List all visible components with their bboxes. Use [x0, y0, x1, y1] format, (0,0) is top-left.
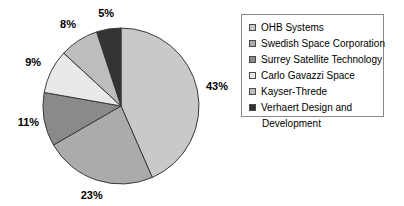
legend-swatch-icon	[249, 88, 256, 95]
legend-swatch-icon	[249, 104, 256, 111]
legend-item-label-line2: Development	[262, 117, 321, 131]
legend-item[interactable]: Carlo Gavazzi Space	[249, 69, 383, 84]
legend-swatch-icon	[249, 72, 256, 79]
pie-plot-area: 43%23%11%9%8%5%	[0, 0, 240, 206]
legend-item-label: Kayser-Threde	[261, 85, 327, 99]
legend-item[interactable]: Kayser-Threde	[249, 85, 383, 100]
pie-svg	[0, 0, 240, 206]
legend-swatch-icon	[249, 24, 256, 31]
pie-slice-percentage-label: 8%	[60, 18, 76, 30]
chart-legend: OHB Systems Swedish Space Corporation Su…	[241, 14, 384, 117]
legend-item[interactable]: OHB Systems	[249, 21, 383, 36]
legend-item[interactable]: Swedish Space Corporation	[249, 37, 383, 52]
legend-item-label: OHB Systems	[261, 21, 324, 35]
legend-item[interactable]: Verhaert Design and	[249, 101, 383, 116]
pie-slice-percentage-label: 9%	[25, 56, 41, 68]
pie-slice-percentage-label: 43%	[206, 80, 228, 92]
pie-chart-figure: 43%23%11%9%8%5% OHB Systems Swedish Spac…	[0, 0, 404, 206]
legend-item-label: Surrey Satellite Technology	[261, 53, 382, 67]
legend-swatch-icon	[249, 56, 256, 63]
legend-item-label: Swedish Space Corporation	[261, 37, 385, 51]
legend-swatch-icon	[249, 40, 256, 47]
pie-slice-percentage-label: 11%	[18, 116, 39, 128]
legend-item[interactable]: Surrey Satellite Technology	[249, 53, 383, 68]
pie-slice-group	[43, 28, 199, 184]
legend-item-label: Carlo Gavazzi Space	[261, 69, 355, 83]
legend-item-continuation: Development	[249, 117, 383, 132]
legend-item-label: Verhaert Design and	[261, 101, 352, 115]
pie-slice-percentage-label: 23%	[81, 189, 103, 201]
pie-slice-percentage-label: 5%	[98, 7, 114, 19]
